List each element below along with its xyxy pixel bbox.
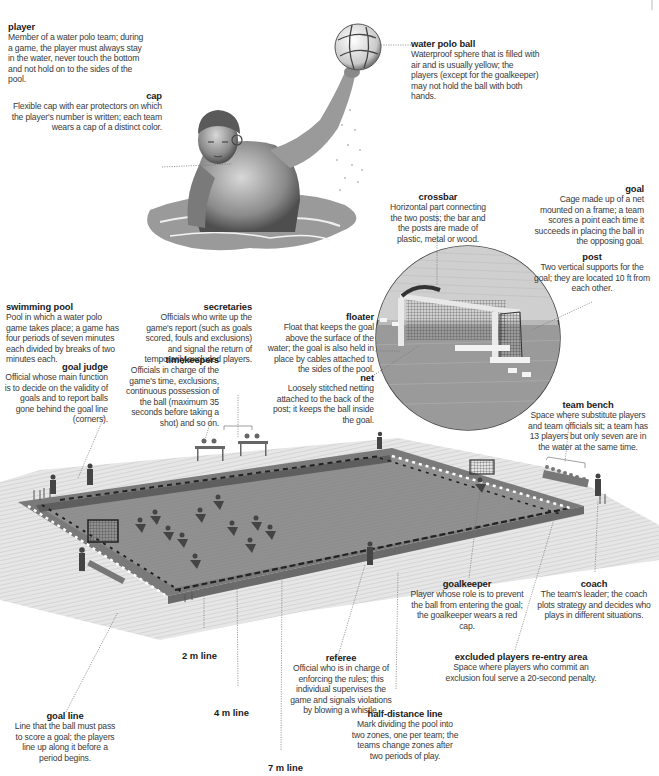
label-goal-line: goal line Line that the ball must pass t… — [12, 710, 118, 763]
label-floater: floater Float that keeps the goal above … — [264, 311, 374, 375]
label-description: Member of a water polo team; during a ga… — [8, 32, 148, 85]
label-description: Official whose main function is to decid… — [2, 372, 108, 425]
label-description: Space where substitute players and team … — [527, 410, 649, 452]
label-goal-judge: goal judge Official whose main function … — [2, 361, 108, 425]
label-title: crossbar — [386, 191, 490, 202]
label-title: half-distance line — [350, 708, 460, 719]
label-crossbar: crossbar Horizontal part connecting the … — [386, 191, 490, 244]
label-description: Two vertical supports for the goal; they… — [534, 262, 650, 294]
label-description: Flexible cap with ear protectors on whic… — [10, 101, 162, 133]
label-description: Loosely stitched netting attached to the… — [266, 383, 374, 425]
player-figure — [147, 66, 363, 250]
label-goalkeeper: goalkeeper Player whose role is to preve… — [408, 578, 526, 631]
label-2m-line: 2 m line — [182, 650, 217, 661]
label-swimming-pool: swimming pool Pool in which a water polo… — [6, 301, 122, 365]
label-title: net — [266, 372, 374, 383]
label-title: coach — [536, 578, 652, 589]
label-title: timekeepers — [116, 354, 219, 365]
label-title: player — [8, 21, 148, 32]
label-title: goal — [532, 183, 644, 194]
label-title: water polo ball — [411, 38, 541, 49]
label-title: floater — [264, 311, 374, 322]
label-referee: referee Official who is in charge of enf… — [288, 652, 394, 716]
label-player: player Member of a water polo team; duri… — [8, 21, 148, 85]
label-description: Space where players who commit an exclus… — [436, 662, 606, 683]
label-4m-line: 4 m line — [214, 707, 249, 718]
label-description: Float that keeps the goal above the surf… — [264, 322, 374, 375]
label-description: Horizontal part connecting the two posts… — [386, 202, 490, 244]
label-description: Line that the ball must pass to score a … — [12, 721, 118, 763]
label-title: excluded players re-entry area — [436, 651, 606, 662]
label-cap: cap Flexible cap with ear protectors on … — [10, 90, 162, 133]
label-title: team bench — [527, 399, 649, 410]
label-net: net Loosely stitched netting attached to… — [266, 372, 374, 425]
label-excluded-players-area: excluded players re-entry area Space whe… — [436, 651, 606, 683]
label-7m-line: 7 m line — [268, 762, 303, 773]
label-half-distance-line: half-distance line Mark dividing the poo… — [350, 708, 460, 761]
label-title: secretaries — [140, 301, 252, 312]
label-title: referee — [288, 652, 394, 663]
label-description: Cage made up of a net mounted on a frame… — [532, 194, 644, 247]
label-water-polo-ball: water polo ball Waterproof sphere that i… — [411, 38, 541, 102]
label-goal: goal Cage made up of a net mounted on a … — [532, 183, 644, 247]
water-polo-ball-figure — [335, 24, 381, 70]
label-coach: coach The team's leader; the coach plots… — [536, 578, 652, 621]
label-title: goalkeeper — [408, 578, 526, 589]
label-title: swimming pool — [6, 301, 122, 312]
label-description: Mark dividing the pool into two zones, o… — [350, 719, 460, 761]
label-team-bench: team bench Space where substitute player… — [527, 399, 649, 452]
label-description: Pool in which a water polo game takes pl… — [6, 312, 122, 365]
label-description: The team's leader; the coach plots strat… — [536, 589, 652, 621]
label-title: goal line — [12, 710, 118, 721]
label-timekeepers: timekeepers Officials in charge of the g… — [116, 354, 219, 429]
label-description: Officials in charge of the game's time, … — [116, 365, 219, 429]
label-title: goal judge — [2, 361, 108, 372]
label-description: Waterproof sphere that is filled with ai… — [411, 49, 541, 102]
label-post: post Two vertical supports for the goal;… — [534, 251, 650, 294]
label-title: cap — [10, 90, 162, 101]
label-description: Player whose role is to prevent the ball… — [408, 589, 526, 631]
label-title: post — [534, 251, 650, 262]
